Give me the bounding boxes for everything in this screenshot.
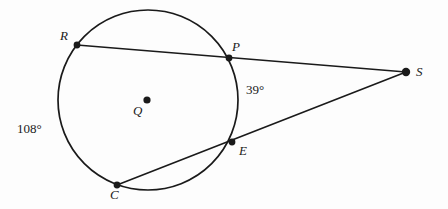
point-dot-Q (143, 96, 150, 103)
point-label-Q: Q (133, 104, 142, 117)
arc-measure-108: 108° (17, 122, 42, 135)
geometry-figure: R P S Q E C 39° 108° (0, 0, 448, 209)
point-dot-E (229, 139, 236, 146)
point-dot-R (74, 42, 81, 49)
point-label-S: S (416, 65, 423, 78)
point-dot-P (226, 55, 233, 62)
point-label-P: P (232, 40, 240, 53)
secant-R-to-S (77, 45, 406, 72)
point-dot-S (402, 68, 410, 76)
point-label-R: R (60, 29, 68, 42)
point-label-C: C (110, 188, 119, 201)
point-label-E: E (239, 144, 247, 157)
angle-measure-39: 39° (246, 83, 264, 96)
